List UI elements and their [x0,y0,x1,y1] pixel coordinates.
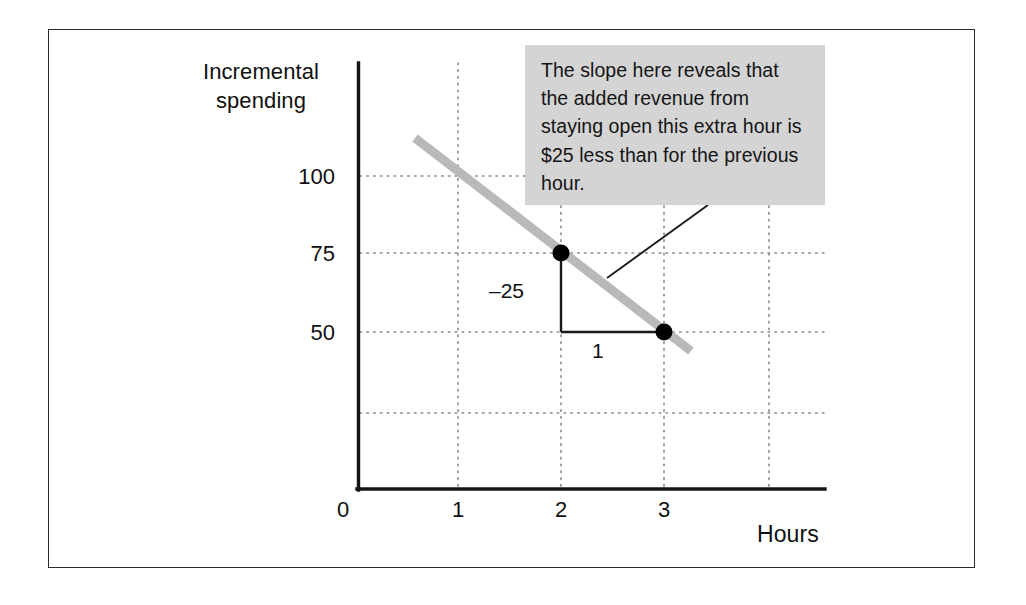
y-tick-label-50: 50 [277,320,335,346]
rise-label: –25 [489,279,524,303]
y-tick-label-75: 75 [277,241,335,267]
x-axis-title: Hours [757,521,819,548]
annotation-callout: The slope here reveals that the added re… [525,45,825,205]
x-tick-label-0: 0 [323,497,363,523]
x-tick-label-3: 3 [644,497,684,523]
x-tick-label-1: 1 [438,497,478,523]
y-tick-label-100: 100 [277,164,335,190]
y-axis-title: Incremental spending [186,57,336,115]
annotation-text: The slope here reveals that the added re… [541,56,811,197]
figure-root: Incremental spending Hours 100 75 50 0 1… [0,0,1026,605]
x-tick-label-2: 2 [541,497,581,523]
run-label: 1 [592,339,604,363]
